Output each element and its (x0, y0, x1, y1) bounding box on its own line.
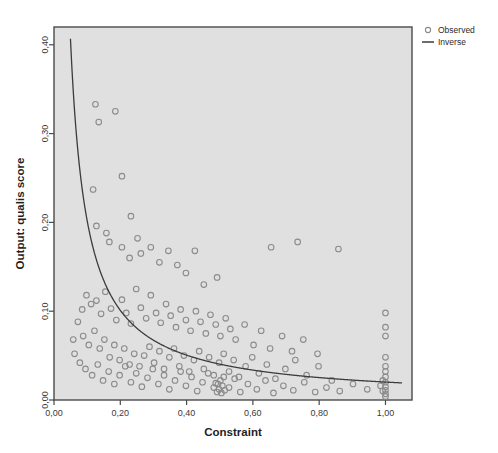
x-tick-label: 0,40 (178, 408, 196, 418)
x-tick-label: 0,60 (244, 408, 262, 418)
y-axis-title: Output: qualis score (14, 158, 26, 270)
y-tick-label: 0,20 (40, 214, 50, 232)
plot-area-background (54, 27, 412, 400)
x-axis-title: Constraint (204, 426, 262, 438)
y-tick-label: 0,00 (40, 391, 50, 409)
chart-canvas: 0,000,200,400,600,801,00 0,000,100,200,3… (0, 0, 498, 453)
x-tick-label: 1,00 (377, 408, 395, 418)
y-tick-label: 0,10 (40, 302, 50, 320)
y-tick-label: 0,40 (40, 36, 50, 54)
x-tick-label: 0,80 (310, 408, 328, 418)
y-tick-label: 0,30 (40, 125, 50, 143)
x-tick-label: 0,20 (112, 408, 130, 418)
scatter-plot-figure: 0,000,200,400,600,801,00 0,000,100,200,3… (0, 0, 498, 453)
legend-inverse-label: Inverse (438, 37, 466, 47)
legend-observed-label: Observed (438, 25, 475, 35)
